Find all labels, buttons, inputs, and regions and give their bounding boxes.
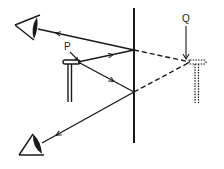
eye-icon [19,134,44,155]
virtual-image-stand [188,60,206,103]
reflected-rays [38,29,134,143]
reflection-diagram: P Q [0,0,224,169]
eye-icon [15,15,40,40]
label-p: P [64,41,78,60]
svg-text:P: P [64,41,71,52]
incident-rays [78,50,134,92]
svg-text:Q: Q [182,13,190,24]
object-stand [63,60,80,102]
label-q: Q [182,13,190,59]
virtual-rays [134,50,190,92]
